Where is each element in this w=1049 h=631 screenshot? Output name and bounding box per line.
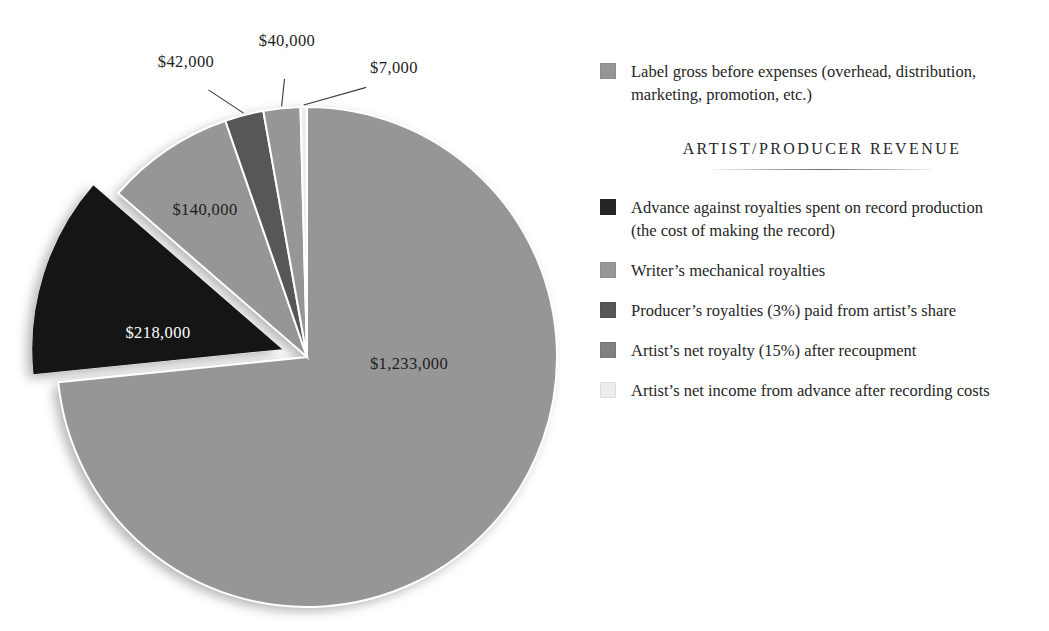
legend-label-writers-mechanical-royalties: Writer’s mechanical royalties: [631, 259, 825, 282]
legend-swatch-producers-royalties: [600, 302, 616, 318]
slice-value-label-producers-royalties: $42,000: [158, 52, 214, 72]
legend-item-artists-net-royalty[interactable]: Artist’s net royalty (15%) after recoupm…: [600, 339, 1030, 362]
legend-divider: [713, 169, 931, 170]
slice-value-label-artists-net-royalty: $40,000: [259, 31, 315, 51]
legend-item-writers-mechanical-royalties[interactable]: Writer’s mechanical royalties: [600, 259, 1030, 282]
legend-swatch-advance-against-royalties: [600, 199, 616, 215]
legend-entry-group: Advance against royalties spent on recor…: [600, 196, 1030, 402]
legend-swatch-writers-mechanical-royalties: [600, 262, 616, 278]
legend: Label gross before expenses (overhead, d…: [600, 60, 1030, 419]
leader-line-artists-net-royalty: [282, 79, 285, 106]
leader-line-artists-net-income-advance: [304, 87, 367, 105]
legend-swatch-artists-net-royalty: [600, 342, 616, 358]
legend-item-producers-royalties[interactable]: Producer’s royalties (3%) paid from arti…: [600, 299, 1030, 322]
legend-section-header: ARTIST/PRODUCER REVENUE: [600, 140, 1030, 158]
legend-label-producers-royalties: Producer’s royalties (3%) paid from arti…: [631, 299, 956, 322]
legend-label-advance-against-royalties: Advance against royalties spent on recor…: [631, 196, 991, 242]
legend-divider-wrap: [600, 169, 1030, 170]
chart-area: $1,233,000$218,000$140,000$42,000$40,000…: [0, 0, 560, 631]
pie-chart-figure: $1,233,000$218,000$140,000$42,000$40,000…: [0, 0, 1049, 631]
legend-label-artists-net-income-advance: Artist’s net income from advance after r…: [631, 379, 990, 402]
legend-swatch-artists-net-income-advance: [600, 382, 616, 398]
leader-line-producers-royalties: [208, 90, 243, 113]
slice-value-label-artists-net-income-advance: $7,000: [370, 58, 418, 78]
legend-label-label-gross: Label gross before expenses (overhead, d…: [631, 60, 991, 106]
slice-value-label-label-gross: $1,233,000: [370, 354, 448, 374]
legend-section-header-text: ARTIST/PRODUCER REVENUE: [683, 140, 962, 158]
legend-item-advance-against-royalties[interactable]: Advance against royalties spent on recor…: [600, 196, 1030, 242]
legend-item-label-gross[interactable]: Label gross before expenses (overhead, d…: [600, 60, 1030, 106]
legend-item-artists-net-income-advance[interactable]: Artist’s net income from advance after r…: [600, 379, 1030, 402]
legend-swatch-label-gross: [600, 63, 616, 79]
slice-value-label-advance-against-royalties: $218,000: [125, 323, 190, 343]
slice-value-label-writers-mechanical-royalties: $140,000: [172, 200, 237, 220]
legend-label-artists-net-royalty: Artist’s net royalty (15%) after recoupm…: [631, 339, 916, 362]
legend-top-group: Label gross before expenses (overhead, d…: [600, 60, 1030, 106]
pie-chart-svg: [0, 0, 560, 631]
pie-slice-group: [32, 107, 557, 607]
